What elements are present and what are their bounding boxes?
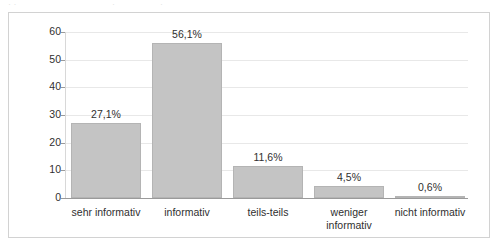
bar-value-label: 0,6% xyxy=(395,181,465,193)
bar xyxy=(395,196,465,198)
bar xyxy=(314,186,384,198)
gridline-40 xyxy=(65,87,468,88)
bar xyxy=(233,166,303,198)
y-tick-label-30: 30 xyxy=(35,109,61,120)
y-tick-label-20: 20 xyxy=(35,137,61,148)
x-axis-line xyxy=(65,198,468,199)
y-tick-label-50: 50 xyxy=(35,54,61,65)
x-category-label: teils-teils xyxy=(221,206,315,219)
x-category-label: informativ xyxy=(140,206,234,219)
x-category-label: sehr informativ xyxy=(59,206,153,219)
x-category-label: weniger informativ xyxy=(302,206,396,231)
bar xyxy=(152,43,222,198)
bar-value-label: 27,1% xyxy=(71,108,141,120)
y-axis-line xyxy=(65,32,66,199)
bar-value-label: 4,5% xyxy=(314,171,384,183)
chart-screenshot: · · · · 0102030405060 27,1%56,1%11,6%4,5… xyxy=(0,0,500,244)
bar-value-label: 56,1% xyxy=(152,28,222,40)
gridline-60 xyxy=(65,32,468,33)
gridline-50 xyxy=(65,60,468,61)
bar xyxy=(71,123,141,198)
y-tick-label-0: 0 xyxy=(35,192,61,203)
x-category-label: nicht informativ xyxy=(383,206,477,219)
y-tick-label-60: 60 xyxy=(35,26,61,37)
bar-value-label: 11,6% xyxy=(233,151,303,163)
plot-area: 0102030405060 27,1%56,1%11,6%4,5%0,6% se… xyxy=(0,0,500,244)
y-tick-label-10: 10 xyxy=(35,164,61,175)
y-tick-label-40: 40 xyxy=(35,81,61,92)
